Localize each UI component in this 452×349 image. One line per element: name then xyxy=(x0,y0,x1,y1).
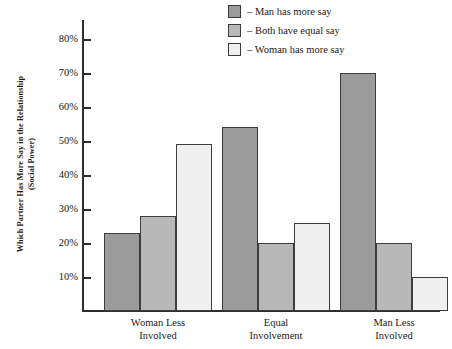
legend-item-man-has-more-say: – Man has more say xyxy=(228,2,428,20)
y-axis-line xyxy=(82,20,84,312)
y-axis-title: Which Partner Has More Say in the Relati… xyxy=(13,34,39,294)
bar xyxy=(376,243,412,311)
y-axis-tick: 70% xyxy=(84,73,91,75)
x-axis-category-label-line: Equal xyxy=(216,316,336,329)
y-axis-tick-label: 50% xyxy=(59,134,78,147)
bar xyxy=(412,277,448,311)
legend-label-man-has-more-say: – Man has more say xyxy=(247,5,332,18)
y-axis-tick: 80% xyxy=(84,39,91,41)
y-axis-tick-label: 60% xyxy=(59,100,78,113)
y-axis-tick: 10% xyxy=(84,277,91,279)
x-axis-category-label-line: Involved xyxy=(334,329,452,342)
x-axis-category-label: EqualInvolvement xyxy=(216,316,336,342)
bar xyxy=(104,233,140,311)
y-axis-title-line1: Which Partner Has More Say in the Relati… xyxy=(15,76,26,252)
y-axis-title-line2: (Social Power) xyxy=(26,138,37,190)
y-axis-tick-label: 80% xyxy=(59,32,78,45)
y-axis-tick: 50% xyxy=(84,141,91,143)
y-axis-tick: 40% xyxy=(84,175,91,177)
y-axis-tick-label: 10% xyxy=(59,270,78,283)
bar xyxy=(340,73,376,311)
x-axis-category-label-line: Man Less xyxy=(334,316,452,329)
bar xyxy=(222,127,258,311)
y-axis-tick: 60% xyxy=(84,107,91,109)
bar xyxy=(176,144,212,311)
y-axis-tick-label: 30% xyxy=(59,202,78,215)
x-axis-category-label-line: Involvement xyxy=(216,329,336,342)
x-axis-category-label: Woman LessInvolved xyxy=(98,316,218,342)
x-axis-category-label: Man LessInvolved xyxy=(334,316,452,342)
y-axis-tick-label: 40% xyxy=(59,168,78,181)
x-axis-category-label-line: Involved xyxy=(98,329,218,342)
x-axis-category-label-line: Woman Less xyxy=(98,316,218,329)
y-axis-tick-label: 20% xyxy=(59,236,78,249)
bar xyxy=(258,243,294,311)
bar xyxy=(140,216,176,311)
y-axis-tick-label: 70% xyxy=(59,66,78,79)
bar xyxy=(294,223,330,311)
y-axis-tick: 20% xyxy=(84,243,91,245)
y-axis-tick: 30% xyxy=(84,209,91,211)
plot-area: 80%70%60%50%40%30%20%10% xyxy=(82,20,440,312)
legend-swatch-man-has-more-say xyxy=(228,5,241,18)
